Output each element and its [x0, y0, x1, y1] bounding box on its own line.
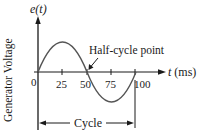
tick-label-50: 50: [80, 79, 91, 90]
cycle-right-arrow-icon: [127, 121, 134, 126]
half-cycle-pointer: [91, 58, 99, 67]
half-cycle-annotation: Half-cycle point: [89, 45, 164, 57]
cycle-left-arrow-icon: [39, 121, 46, 126]
x-axis-label: t (ms): [168, 66, 196, 78]
y-axis-arrow-icon: [35, 16, 40, 24]
tick-label-25: 25: [56, 79, 67, 90]
tick-label-100: 100: [134, 79, 151, 90]
x-axis-arrow-icon: [158, 69, 166, 74]
cycle-label: Cycle: [74, 117, 102, 129]
tick-label-75: 75: [105, 79, 116, 90]
y-axis-label: e(t): [30, 3, 47, 15]
origin-label: 0: [31, 77, 37, 88]
x-axis-unit: (ms): [174, 65, 196, 79]
x-axis-var: t: [168, 65, 171, 79]
side-label: Generator Voltage: [2, 38, 14, 122]
